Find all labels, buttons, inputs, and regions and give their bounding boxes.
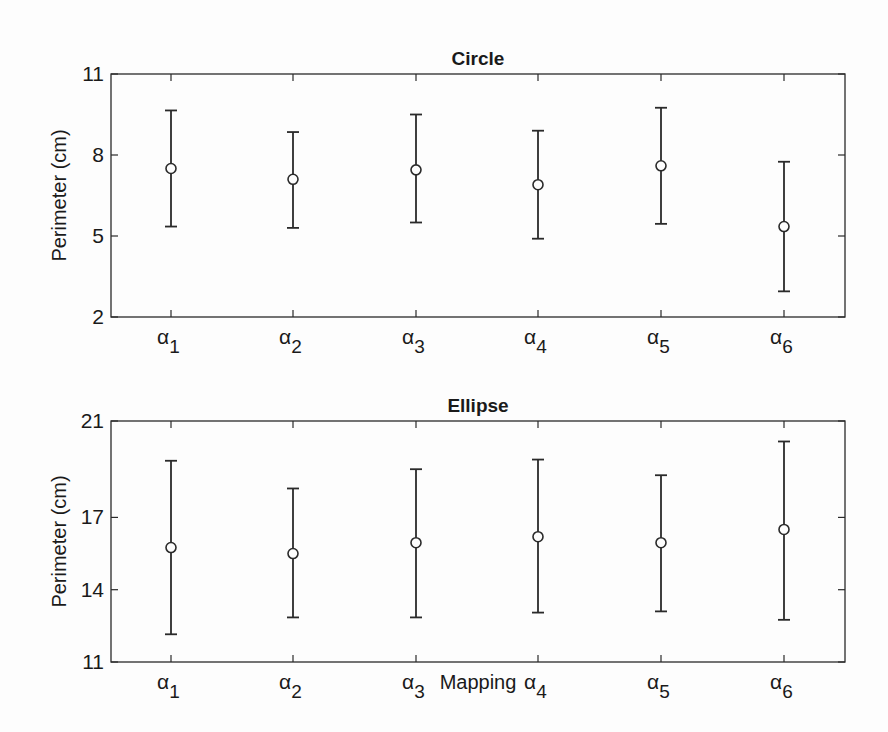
error-bar — [410, 115, 422, 223]
mean-marker — [533, 180, 543, 190]
plot-frame — [111, 74, 845, 317]
y-tick-label: 17 — [81, 505, 104, 528]
mean-marker — [411, 538, 421, 548]
mean-marker — [288, 174, 298, 184]
x-tick-label: α5 — [647, 670, 670, 702]
mean-marker — [533, 532, 543, 542]
x-tick-label: α1 — [157, 325, 180, 357]
x-tick-label: α3 — [402, 670, 425, 702]
chart-title: Circle — [452, 48, 505, 69]
y-tick-label: 5 — [92, 224, 104, 247]
mean-marker — [779, 222, 789, 232]
error-bar — [287, 488, 299, 617]
y-tick-label: 14 — [81, 578, 105, 601]
mean-marker — [656, 538, 666, 548]
y-tick-label: 2 — [92, 305, 104, 328]
error-bar — [655, 108, 667, 224]
mean-marker — [779, 524, 789, 534]
mean-marker — [411, 165, 421, 175]
x-tick-label: α6 — [770, 670, 793, 702]
error-bar — [165, 110, 177, 226]
x-tick-label: α4 — [524, 670, 547, 702]
x-tick-label: α5 — [647, 325, 670, 357]
circle-panel: Circle25811Perimeter (cm)α1α2α3α4α5α6 — [48, 48, 845, 357]
chart-title: Ellipse — [447, 395, 508, 416]
y-tick-label: 11 — [82, 62, 104, 85]
x-tick-label: α2 — [279, 325, 302, 357]
error-bar — [778, 441, 790, 619]
errorbar-figure: Circle25811Perimeter (cm)α1α2α3α4α5α6Ell… — [0, 0, 888, 732]
error-bar — [655, 475, 667, 611]
y-axis-label: Perimeter (cm) — [48, 129, 70, 261]
error-bar — [532, 460, 544, 613]
error-bar — [410, 469, 422, 617]
mean-marker — [166, 164, 176, 174]
mean-marker — [288, 549, 298, 559]
ellipse-panel: Ellipse11141721Perimeter (cm)α1α2α3α4α5α… — [48, 395, 845, 702]
x-tick-label: α2 — [279, 670, 302, 702]
x-axis-label: Mapping — [440, 671, 517, 693]
error-bar — [165, 461, 177, 635]
y-axis-label: Perimeter (cm) — [48, 475, 70, 607]
x-tick-label: α4 — [524, 325, 547, 357]
x-tick-label: α3 — [402, 325, 425, 357]
error-bar — [532, 131, 544, 239]
mean-marker — [166, 543, 176, 553]
x-tick-label: α6 — [770, 325, 793, 357]
y-tick-label: 21 — [81, 409, 104, 432]
y-tick-label: 11 — [82, 650, 104, 673]
plot-frame — [111, 421, 845, 662]
x-tick-label: α1 — [157, 670, 180, 702]
error-bar — [778, 162, 790, 292]
error-bar — [287, 132, 299, 228]
mean-marker — [656, 161, 666, 171]
y-tick-label: 8 — [92, 143, 104, 166]
